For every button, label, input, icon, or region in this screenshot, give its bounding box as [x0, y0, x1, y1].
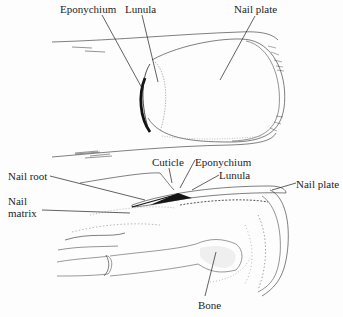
label-side-nail-plate: Nail plate	[296, 178, 339, 190]
label-side-cuticle: Cuticle	[152, 156, 184, 168]
label-side-nail-matrix-line2: matrix	[8, 207, 37, 219]
label-side-eponychium: Eponychium	[195, 156, 251, 168]
top-view-leader-lines	[102, 15, 255, 90]
top-view-drawing	[52, 32, 285, 157]
label-side-nail-matrix-line1: Nail	[8, 195, 27, 207]
label-side-lunula: Lunula	[219, 169, 250, 181]
label-side-bone: Bone	[198, 299, 221, 311]
nail-anatomy-figure: Eponychium Lunula Nail plate Nail root N…	[0, 0, 343, 317]
label-top-eponychium: Eponychium	[60, 3, 116, 15]
label-side-nail-root: Nail root	[8, 170, 47, 182]
label-top-lunula: Lunula	[125, 3, 156, 15]
side-view-drawing	[57, 152, 288, 296]
label-top-nail-plate: Nail plate	[234, 3, 277, 15]
